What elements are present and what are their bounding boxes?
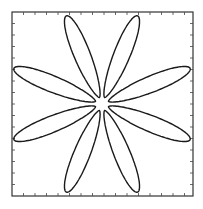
petal <box>14 106 96 142</box>
rose-petals <box>14 16 190 192</box>
petal <box>109 67 191 103</box>
axis-ticks <box>12 12 193 196</box>
petal <box>104 111 140 193</box>
petal <box>65 111 101 193</box>
petal <box>14 67 96 103</box>
petal <box>65 16 101 98</box>
petal <box>104 16 140 98</box>
plot-frame <box>12 12 193 196</box>
polar-rose-plot <box>0 0 203 209</box>
petal <box>109 106 191 142</box>
